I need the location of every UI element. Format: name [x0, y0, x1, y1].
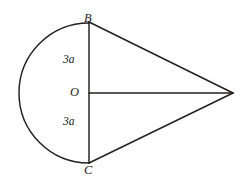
- geometry-figure: B 3a O 3a C: [0, 0, 243, 182]
- point-label-o: O: [70, 86, 79, 99]
- point-label-b: B: [84, 12, 92, 25]
- point-label-c: C: [84, 164, 92, 177]
- measure-label-lower-3a: 3a: [63, 116, 75, 128]
- measure-label-upper-3a: 3a: [63, 54, 75, 66]
- tangent-b-to-apex-line: [89, 22, 233, 93]
- figure-canvas: [0, 0, 243, 182]
- tangent-c-to-apex-line: [89, 93, 233, 163]
